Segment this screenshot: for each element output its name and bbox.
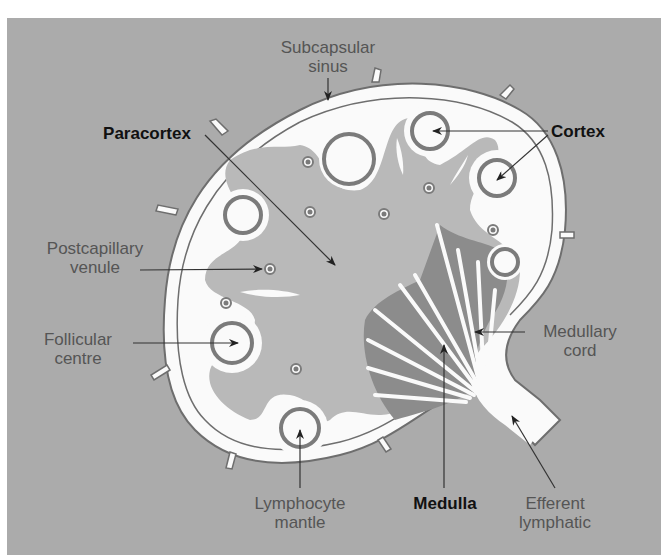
label-cortex: Cortex xyxy=(548,122,608,141)
label-subcapsular-sinus: Subcapsular sinus xyxy=(268,38,388,76)
lymph-node-diagram xyxy=(0,0,672,558)
label-postcapillary-venule: Postcapillary venule xyxy=(30,239,160,277)
label-paracortex: Paracortex xyxy=(92,124,202,143)
label-efferent-lymphatic: Efferent lymphatic xyxy=(505,494,605,532)
label-medulla: Medulla xyxy=(400,494,490,513)
label-lymphocyte-mantle: Lymphocyte mantle xyxy=(240,494,360,532)
label-follicular-centre: Follicular centre xyxy=(28,330,128,368)
label-medullary-cord: Medullary cord xyxy=(530,322,630,360)
